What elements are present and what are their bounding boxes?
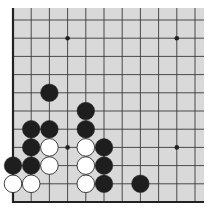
white-stone[interactable] — [77, 175, 95, 193]
black-stone[interactable] — [22, 139, 40, 157]
star-point-icon — [65, 36, 70, 41]
black-stone[interactable] — [95, 139, 113, 157]
black-stone[interactable] — [95, 157, 113, 175]
white-stone[interactable] — [41, 157, 59, 175]
star-point-icon — [65, 145, 70, 150]
black-stone[interactable] — [77, 102, 95, 120]
white-stone[interactable] — [77, 139, 95, 157]
black-stone[interactable] — [41, 84, 59, 102]
star-point-icon — [175, 36, 180, 41]
black-stone[interactable] — [22, 120, 40, 138]
white-stone[interactable] — [77, 157, 95, 175]
white-stone[interactable] — [22, 175, 40, 193]
white-stone[interactable] — [41, 139, 59, 157]
black-stone[interactable] — [77, 120, 95, 138]
black-stone[interactable] — [22, 157, 40, 175]
black-stone[interactable] — [4, 157, 22, 175]
black-stone[interactable] — [41, 120, 59, 138]
star-point-icon — [175, 145, 180, 150]
black-stone[interactable] — [95, 175, 113, 193]
black-stone[interactable] — [132, 175, 150, 193]
go-board[interactable] — [0, 0, 209, 211]
white-stone[interactable] — [4, 175, 22, 193]
